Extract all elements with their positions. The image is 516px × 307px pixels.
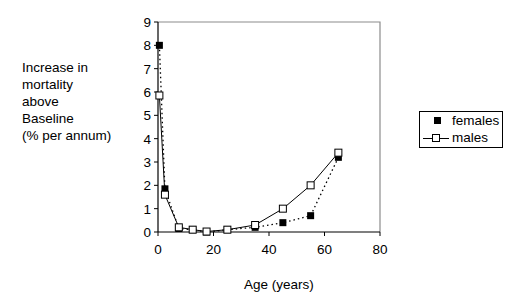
male-data-point (175, 224, 182, 231)
female-data-point (156, 42, 163, 49)
legend-label-females: females (452, 113, 499, 129)
y-tick-label: 9 (143, 15, 151, 30)
male-data-point (279, 205, 286, 212)
open-square-marker-icon (432, 134, 440, 142)
legend-item-females: females (420, 113, 502, 129)
female-data-point (307, 212, 314, 219)
filled-square-marker-icon (434, 117, 441, 124)
legend-label-males: males (452, 130, 488, 146)
series-line-females (159, 45, 338, 232)
y-tick-label: 5 (143, 108, 151, 123)
x-tick-label: 40 (261, 242, 276, 257)
y-tick-label: 6 (143, 85, 151, 100)
y-tick-label: 4 (143, 132, 151, 147)
x-axis-label: Age (years) (244, 277, 314, 292)
y-tick-label: 2 (143, 178, 151, 193)
y-tick-label: 0 (143, 225, 151, 240)
male-data-point (189, 226, 196, 233)
plot-frame (158, 22, 380, 232)
male-data-point (252, 222, 259, 229)
x-tick-label: 60 (317, 242, 332, 257)
male-data-point (161, 191, 168, 198)
male-data-point (335, 149, 342, 156)
x-tick-label: 20 (206, 242, 221, 257)
female-data-point (279, 219, 286, 226)
y-tick-label: 1 (143, 202, 151, 217)
x-tick-label: 80 (372, 242, 387, 257)
y-tick-label: 7 (143, 62, 151, 77)
y-tick-label: 8 (143, 38, 151, 53)
y-tick-label: 3 (143, 155, 151, 170)
legend: females males (419, 111, 503, 148)
chart-plot: 0123456789020406080 (0, 0, 516, 307)
series-line-males (159, 96, 338, 232)
male-data-point (156, 92, 163, 99)
male-data-point (203, 228, 210, 235)
legend-item-males: males (420, 130, 502, 146)
male-data-point (307, 182, 314, 189)
male-data-point (224, 226, 231, 233)
x-tick-label: 0 (154, 242, 162, 257)
